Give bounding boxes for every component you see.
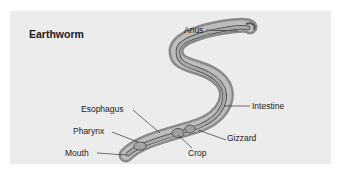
label-anus: Anus <box>184 26 203 35</box>
label-crop: Crop <box>188 149 206 158</box>
label-esophagus: Esophagus <box>81 105 124 114</box>
gizzard-organ <box>185 125 195 133</box>
crop-organ <box>172 129 184 138</box>
label-intestine: Intestine <box>252 102 284 111</box>
diagram-title: Earthworm <box>29 28 84 40</box>
pharynx-leader <box>112 132 138 142</box>
pharynx-organ <box>134 142 146 150</box>
esophagus-leader <box>133 110 160 133</box>
label-gizzard: Gizzard <box>227 134 256 143</box>
label-mouth: Mouth <box>65 149 89 158</box>
gizzard-leader <box>198 130 226 140</box>
label-pharynx: Pharynx <box>73 127 104 136</box>
